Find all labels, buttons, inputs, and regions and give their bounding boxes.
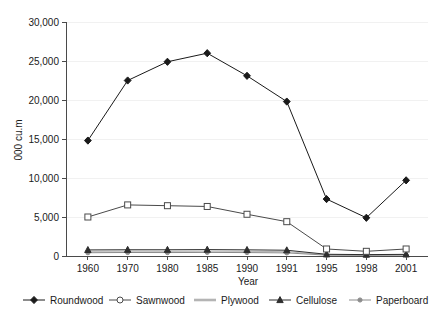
series-layer [84,50,409,258]
y-tick-label: 20,000 [28,95,59,106]
x-axis-title: Year [238,276,259,287]
y-tick-label: 10,000 [28,173,59,184]
x-axis: 196019701980198519901991199519982001 [66,256,428,274]
x-tick-label: 1995 [315,263,338,274]
chart-legend: RoundwoodSawnwoodPlywoodCellulosePaperbo… [23,295,428,306]
y-tick-label: 0 [53,251,59,262]
x-tick-label: 1980 [156,263,179,274]
legend-label: Sawnwood [136,295,185,306]
legend-label: Plywood [221,295,259,306]
gridlines [66,22,428,217]
legend-item-plywood[interactable]: Plywood [194,295,259,306]
legend-label: Paperboard [376,295,428,306]
legend-label: Roundwood [50,295,103,306]
legend-label: Cellulose [296,295,338,306]
x-tick-label: 1991 [276,263,299,274]
x-tick-label: 1998 [355,263,378,274]
legend-item-sawnwood[interactable]: Sawnwood [109,295,185,306]
y-tick-label: 25,000 [28,56,59,67]
legend-item-cellulose[interactable]: Cellulose [269,295,338,306]
x-tick-label: 1990 [236,263,259,274]
x-tick-label: 1970 [117,263,140,274]
y-axis: 05,00010,00015,00020,00025,00030,000 [28,17,66,262]
x-tick-label: 2001 [395,263,418,274]
legend-marker-icon [358,298,362,302]
y-axis-title: 000 cu.m [13,119,24,160]
x-tick-label: 1985 [196,263,219,274]
legend-item-roundwood[interactable]: Roundwood [23,295,103,306]
y-tick-label: 5,000 [34,212,59,223]
y-tick-label: 15,000 [28,134,59,145]
line-chart: 05,00010,00015,00020,00025,00030,000 196… [0,0,442,322]
legend-item-paperboard[interactable]: Paperboard [349,295,428,306]
x-tick-label: 1960 [77,263,100,274]
chart-container: 05,00010,00015,00020,00025,00030,000 196… [0,0,442,322]
y-tick-label: 30,000 [28,17,59,28]
series-roundwood [84,50,409,222]
legend-marker-icon [31,296,38,303]
legend-marker-icon [117,297,123,303]
